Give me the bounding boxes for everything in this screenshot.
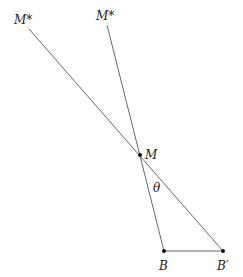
- geometry-diagram: M* M* M θ B B′: [0, 0, 243, 277]
- line-mstar-right-to-b: [107, 25, 164, 251]
- label-bprime: B′: [216, 259, 229, 273]
- line-mstar-left-to-bprime: [29, 29, 223, 251]
- label-mstar-left: M*: [13, 13, 32, 27]
- label-theta: θ: [153, 181, 161, 195]
- point-b: [162, 249, 166, 253]
- label-mstar-right: M*: [95, 9, 114, 23]
- label-m: M: [144, 148, 158, 162]
- point-m: [138, 153, 142, 157]
- label-b: B: [158, 259, 168, 273]
- point-bprime: [221, 249, 225, 253]
